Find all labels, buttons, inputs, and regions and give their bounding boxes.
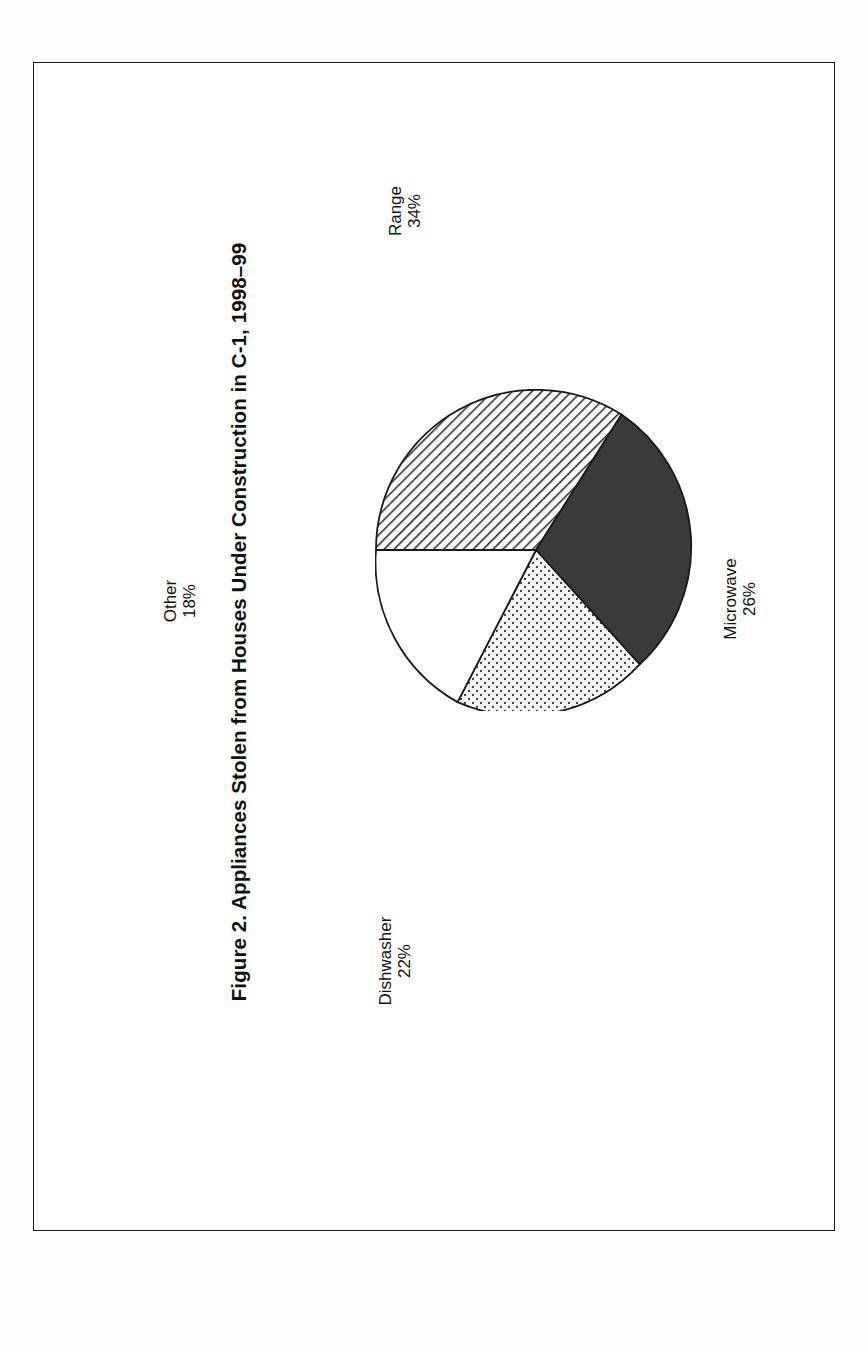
pie-label-range-value: 34%: [405, 151, 424, 271]
pie-label-range: Range 34%: [386, 151, 424, 271]
pie-label-microwave-name: Microwave: [721, 534, 740, 664]
pie-label-range-name: Range: [386, 151, 405, 271]
pie-label-dishwasher: Dishwasher 22%: [376, 891, 414, 1031]
pie-label-dishwasher-value: 22%: [395, 891, 414, 1031]
pie-label-other-name: Other: [161, 546, 180, 656]
document-page: Figure 2. Appliances Stolen from Houses …: [0, 0, 868, 1351]
pie-chart: [375, 389, 697, 711]
pie-slice-other: [375, 389, 697, 711]
pie-label-other: Other 18%: [161, 546, 199, 656]
figure-title: Figure 2. Appliances Stolen from Houses …: [227, 162, 251, 1082]
pie-label-other-value: 18%: [180, 546, 199, 656]
pie-label-dishwasher-name: Dishwasher: [376, 891, 395, 1031]
pie-label-microwave-value: 26%: [740, 534, 759, 664]
pie-label-microwave: Microwave 26%: [721, 534, 759, 664]
figure-rotated-plane: Figure 2. Appliances Stolen from Houses …: [33, 62, 835, 1231]
